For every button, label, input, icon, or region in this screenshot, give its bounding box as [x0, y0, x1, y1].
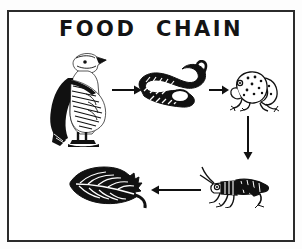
grasshopper-icon	[198, 166, 274, 208]
node-frog	[228, 66, 280, 112]
node-grasshopper	[198, 166, 274, 208]
node-eagle	[44, 50, 118, 148]
food-chain-poster: FOOD CHAIN	[0, 0, 302, 249]
node-snake	[134, 60, 214, 110]
snake-icon	[134, 60, 214, 110]
page-title: FOOD CHAIN	[7, 17, 295, 41]
arrow-grasshopper-to-leaf	[151, 184, 201, 196]
leaf-icon	[66, 164, 152, 210]
arrow-snake-to-frog	[209, 84, 229, 96]
frog-icon	[228, 66, 280, 112]
node-leaf	[66, 164, 152, 210]
arrow-frog-to-grasshopper	[242, 116, 254, 160]
eagle-icon	[44, 50, 118, 148]
